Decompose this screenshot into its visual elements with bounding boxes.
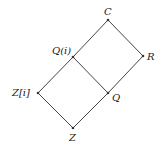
edge-q-z	[73, 93, 108, 128]
node-r	[142, 55, 145, 58]
node-q	[107, 92, 110, 95]
edge-qi-q	[73, 57, 108, 93]
edge-c-qi	[73, 20, 108, 57]
edge-r-q	[108, 56, 143, 93]
labels: C Q(i) R Z[i] Q Z	[11, 6, 155, 143]
nodes	[37, 19, 145, 130]
label-z: Z	[68, 132, 77, 143]
lattice-diagram: C Q(i) R Z[i] Q Z	[0, 0, 162, 146]
node-c	[107, 19, 110, 22]
edges	[38, 20, 143, 128]
edge-c-r	[108, 20, 143, 56]
edge-zi-z	[38, 93, 73, 128]
node-z	[72, 127, 75, 130]
node-qi	[72, 56, 75, 59]
label-zi: Z[i]	[11, 87, 30, 98]
label-q: Q	[112, 92, 120, 103]
label-r: R	[146, 51, 155, 62]
label-c: C	[104, 6, 112, 17]
label-qi: Q(i)	[52, 45, 71, 56]
node-zi	[37, 92, 40, 95]
edge-qi-zi	[38, 57, 73, 93]
